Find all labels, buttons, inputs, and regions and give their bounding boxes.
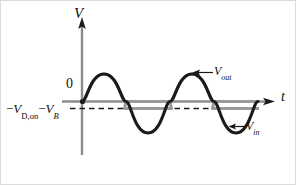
vout-label-subscript: out (221, 73, 231, 82)
x-axis-label: t (281, 90, 285, 104)
vin-label-subscript: in (253, 128, 259, 137)
clip-subscript-2: B (54, 111, 59, 121)
clip-minus-2: − (38, 101, 45, 116)
vout-waveform (82, 74, 258, 102)
clip-subscript-1: D,on (21, 111, 38, 121)
figure-canvas: V t 0 −VD,on−VB Vout Vin (0, 0, 296, 185)
waveform-plot (0, 0, 296, 185)
clip-v-2: V (46, 101, 54, 116)
y-axis-label: V (74, 6, 83, 21)
vin-label: Vin (246, 120, 260, 135)
origin-dot (80, 99, 85, 104)
origin-label: 0 (66, 77, 73, 91)
clip-level-label: −VD,on−VB (6, 102, 59, 118)
axes-group (62, 17, 275, 155)
vout-label: Vout (214, 65, 231, 80)
